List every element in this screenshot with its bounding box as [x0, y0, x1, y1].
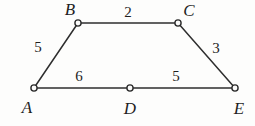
vertex-dot-e — [232, 85, 238, 91]
edge-weight-ab: 5 — [34, 40, 42, 55]
vertex-dot-a — [31, 85, 37, 91]
edge-weight-ad: 6 — [75, 69, 83, 84]
vertex-dot-b — [75, 20, 81, 26]
vertex-label-a: A — [22, 99, 32, 116]
edge-weight-ce: 3 — [212, 41, 220, 56]
edge-ce — [178, 23, 235, 88]
edge-ab — [34, 23, 78, 88]
vertex-dot-c — [175, 20, 181, 26]
vertex-label-c: C — [183, 2, 194, 19]
vertex-label-e: E — [234, 100, 244, 117]
edge-group — [34, 23, 235, 88]
geometry-figure: A B C D E 5 2 3 6 5 — [0, 0, 255, 126]
vertex-label-d: D — [124, 100, 136, 117]
vertex-label-b: B — [65, 1, 75, 18]
vertex-dot-d — [127, 85, 133, 91]
edge-weight-bc: 2 — [124, 5, 132, 20]
edge-weight-de: 5 — [172, 69, 180, 84]
